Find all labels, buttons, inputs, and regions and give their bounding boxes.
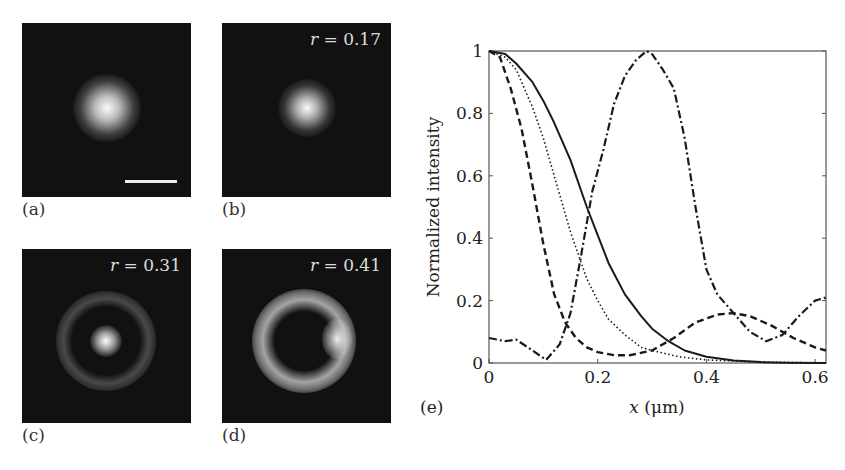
y-tick-label: 0.2 <box>456 291 483 311</box>
x-tick-label: 0.6 <box>802 367 829 387</box>
y-axis-label: Normalized intensity <box>423 116 443 297</box>
y-tick-label: 1 <box>472 41 483 61</box>
curve-dotted <box>489 51 826 363</box>
plot-frame <box>489 51 826 363</box>
curve-dash-dot <box>489 51 826 360</box>
panel-label-e: (e) <box>420 397 443 417</box>
y-tick-label: 0.6 <box>456 166 483 186</box>
plot-curves <box>489 51 826 363</box>
x-tick-label: 0.4 <box>693 367 720 387</box>
x-tick-label: 0.2 <box>584 367 611 387</box>
y-tick-label: 0.4 <box>456 228 483 248</box>
y-tick-label: 0.8 <box>456 103 483 123</box>
x-axis-label: x (μm) <box>629 397 684 417</box>
curve-solid <box>489 51 826 363</box>
y-tick-label: 0 <box>472 353 483 373</box>
curve-dashed <box>489 51 826 355</box>
x-tick-label: 0 <box>484 367 495 387</box>
intensity-profile-chart: 00.20.40.600.20.40.60.81 Normalized inte… <box>0 0 845 470</box>
